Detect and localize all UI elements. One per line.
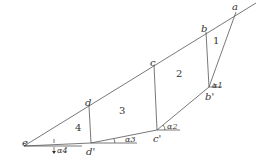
point-label-b-prime: b': [205, 91, 214, 102]
point-label-b: b: [201, 23, 207, 34]
region-label-3: 3: [119, 105, 125, 116]
arrow-icon: [52, 151, 56, 154]
slice-boundary-b: [206, 32, 209, 87]
point-label-c-prime: c': [153, 133, 161, 144]
angle-arc-a3: [114, 139, 115, 143]
slip-line-bprime-cprime: [157, 87, 209, 130]
point-label-c: c: [150, 57, 156, 68]
diagram-canvas: a b c d e b' c' d' 1 2 3 4 α1 α2 α3 α4: [0, 0, 271, 167]
point-label-e: e: [22, 137, 28, 148]
angle-arc-a2: [163, 125, 165, 130]
angle-label-a1: α1: [212, 81, 223, 90]
point-label-d: d: [85, 97, 91, 108]
slice-boundary-d: [89, 106, 91, 143]
slip-line-cprime-dprime: [91, 130, 157, 143]
region-label-1: 1: [213, 35, 219, 46]
angle-label-a4: α4: [57, 146, 68, 155]
point-label-a: a: [232, 1, 238, 12]
angle-label-a3: α3: [125, 135, 136, 144]
slice-boundary-c: [154, 65, 157, 130]
region-label-2: 2: [176, 68, 182, 79]
angle-label-a2: α2: [167, 122, 178, 131]
ground-surface-line: [24, 3, 256, 146]
slice-diagram: a b c d e b' c' d' 1 2 3 4 α1 α2 α3 α4: [0, 0, 271, 167]
point-label-d-prime: d': [86, 146, 95, 157]
region-label-4: 4: [75, 122, 81, 133]
